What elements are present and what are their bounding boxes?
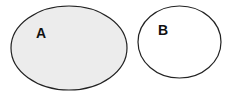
venn-diagram: A B xyxy=(0,0,231,95)
set-b-ellipse xyxy=(138,6,221,78)
set-a-ellipse xyxy=(11,6,127,90)
set-b-label: B xyxy=(158,22,168,38)
set-a-label: A xyxy=(36,25,46,41)
